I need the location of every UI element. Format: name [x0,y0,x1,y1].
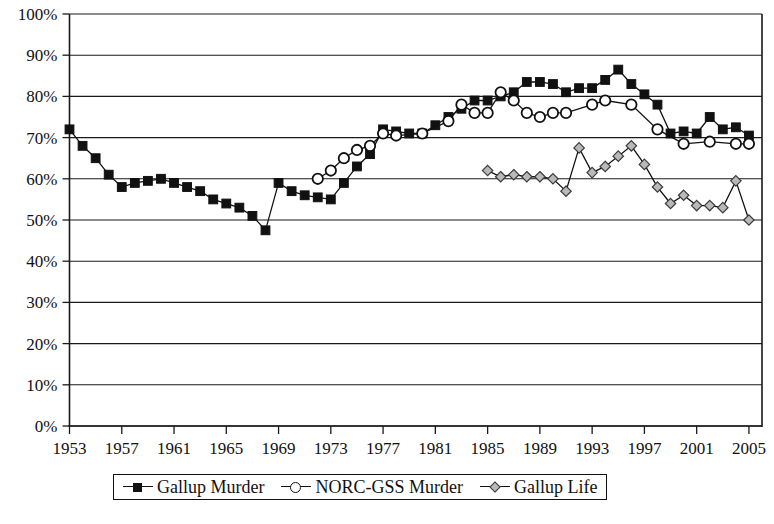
data-point-marker [339,153,349,163]
x-tick-label: 1989 [523,439,557,458]
data-point-marker [104,170,113,179]
data-point-marker [549,80,558,89]
data-point-marker [587,99,597,109]
legend-label-gallup-murder: Gallup Murder [157,478,264,496]
data-point-marker [705,200,715,210]
data-point-marker [443,116,453,126]
data-point-marker [575,84,584,93]
data-point-marker [535,78,544,87]
data-point-marker [561,108,571,118]
x-tick-label: 1997 [627,439,662,458]
data-point-marker [196,187,205,196]
data-point-marker [522,172,532,182]
data-point-marker [222,199,231,208]
chart-legend: Gallup Murder NORC-GSS Murder Gallup Lif… [113,474,607,500]
legend-item-norc-gss-murder: NORC-GSS Murder [281,478,463,496]
data-point-marker [535,112,545,122]
data-point-marker [731,123,740,132]
y-tick-label: 20% [26,335,57,354]
legend-label-norc-gss-murder: NORC-GSS Murder [315,478,463,496]
data-point-marker [170,179,179,188]
data-point-marker [627,80,636,89]
x-tick-label: 1953 [53,439,87,458]
data-point-marker [626,99,636,109]
data-point-marker [522,78,531,87]
data-point-marker [731,176,741,186]
legend-item-gallup-life: Gallup Life [480,478,597,496]
legend-label-gallup-life: Gallup Life [514,478,597,496]
data-point-marker [482,108,492,118]
data-point-marker [235,203,244,212]
y-tick-label: 60% [26,170,57,189]
y-tick-label: 80% [26,87,57,106]
series-gallup-life [482,141,754,226]
legend-item-gallup-murder: Gallup Murder [123,478,264,496]
data-point-marker [601,76,610,85]
data-point-marker [718,202,728,212]
data-point-marker [91,154,100,163]
data-point-marker [470,96,479,105]
data-point-marker [78,141,87,150]
y-tick-label: 10% [26,376,57,395]
data-point-marker [261,226,270,235]
data-point-marker [744,139,754,149]
x-tick-label: 1973 [314,439,348,458]
x-tick-label: 1977 [366,439,401,458]
data-point-marker [157,174,166,183]
data-point-marker [653,100,662,109]
x-tick-label: 1957 [105,439,140,458]
data-point-marker [614,65,623,74]
data-point-marker [130,179,139,188]
data-point-marker [313,193,322,202]
data-point-marker [352,145,362,155]
y-tick-label: 100% [18,5,58,24]
line-chart: 100%90%80%70%60%50%40%30%20%10%0% 195319… [0,0,774,524]
data-point-marker [692,129,701,138]
data-point-marker [248,211,257,220]
x-tick-label: 1965 [209,439,243,458]
data-point-marker [588,84,597,93]
data-point-marker [639,159,649,169]
data-point-marker [209,195,218,204]
data-series [65,65,754,234]
axes [63,14,763,434]
data-point-marker [300,191,309,200]
y-tick-label: 50% [26,211,57,230]
data-point-marker [509,95,519,105]
data-point-marker [405,129,414,138]
data-point-marker [417,128,427,138]
data-point-marker [117,183,126,192]
data-point-marker [339,179,348,188]
data-point-marker [274,179,283,188]
data-point-marker [456,99,466,109]
data-point-marker [587,167,597,177]
data-point-marker [652,124,662,134]
data-point-marker [482,165,492,175]
data-point-marker [469,108,479,118]
x-tick-label: 1993 [575,439,609,458]
y-axis-tick-labels: 100%90%80%70%60%50%40%30%20%10%0% [18,5,58,436]
x-tick-label: 1981 [418,439,452,458]
x-tick-label: 2001 [680,439,714,458]
series-gallup-murder [65,65,753,234]
open-circle-marker-icon [281,480,311,494]
data-point-marker [391,130,401,140]
data-point-marker [353,162,362,171]
data-point-marker [705,137,715,147]
y-tick-label: 30% [26,293,57,312]
data-point-marker [495,172,505,182]
x-tick-label: 1961 [157,439,191,458]
data-point-marker [718,125,727,134]
x-tick-label: 1969 [262,439,296,458]
data-point-marker [495,87,505,97]
y-tick-label: 90% [26,46,57,65]
y-tick-label: 40% [26,252,57,271]
data-point-marker [483,96,492,105]
data-point-marker [705,113,714,122]
x-tick-label: 1985 [471,439,505,458]
data-point-marker [365,141,375,151]
data-point-marker [731,139,741,149]
data-point-marker [522,108,532,118]
data-point-marker [744,215,754,225]
data-point-marker [535,172,545,182]
